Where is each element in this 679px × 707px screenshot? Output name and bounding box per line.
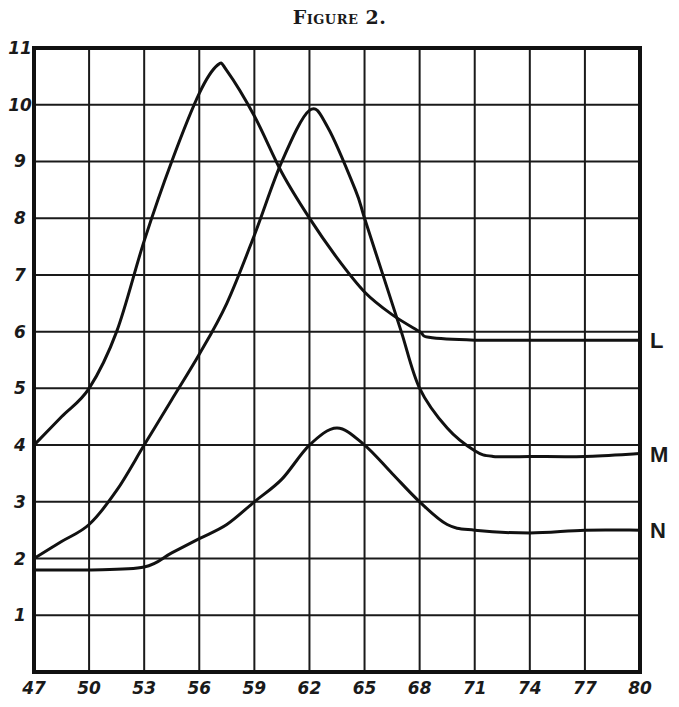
x-tick-label: 68 xyxy=(408,678,432,698)
x-tick-label: 80 xyxy=(628,678,652,698)
series-labels: LMN xyxy=(650,328,668,543)
y-tick-label: 7 xyxy=(14,265,26,285)
y-tick-label: 9 xyxy=(14,151,26,171)
x-tick-label: 77 xyxy=(573,678,597,698)
y-tick-label: 10 xyxy=(8,95,32,115)
plot-frame xyxy=(34,48,640,672)
y-tick-label: 1 xyxy=(14,605,26,625)
plot-border xyxy=(34,48,640,672)
y-tick-label: 8 xyxy=(14,208,26,228)
y-tick-label: 11 xyxy=(8,38,32,58)
series-curve-n xyxy=(34,428,640,570)
x-axis-ticks: 475053565962656871747780 xyxy=(21,678,652,698)
line-chart: 1234567891011 475053565962656871747780 L… xyxy=(0,0,679,707)
y-tick-label: 4 xyxy=(13,435,26,455)
y-tick-label: 3 xyxy=(14,492,26,512)
y-tick-label: 5 xyxy=(14,378,26,398)
data-series xyxy=(34,63,640,570)
y-tick-label: 2 xyxy=(14,549,26,569)
grid-lines xyxy=(34,48,640,672)
series-label-m: M xyxy=(650,442,668,467)
x-tick-label: 74 xyxy=(518,678,542,698)
x-tick-label: 47 xyxy=(21,678,46,698)
y-axis-ticks: 1234567891011 xyxy=(8,38,32,625)
x-tick-label: 56 xyxy=(187,678,211,698)
x-tick-label: 53 xyxy=(132,678,156,698)
x-tick-label: 65 xyxy=(353,678,377,698)
x-tick-label: 59 xyxy=(243,678,267,698)
series-curve-m xyxy=(34,109,640,559)
y-tick-label: 6 xyxy=(14,322,26,342)
x-tick-label: 50 xyxy=(77,678,101,698)
series-label-l: L xyxy=(650,328,663,353)
series-label-n: N xyxy=(650,518,666,543)
x-tick-label: 62 xyxy=(298,678,322,698)
x-tick-label: 71 xyxy=(463,678,487,698)
